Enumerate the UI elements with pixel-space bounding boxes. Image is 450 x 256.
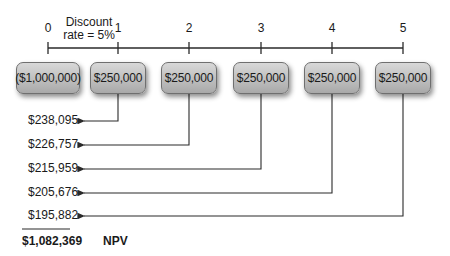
connector-period-1 [84,93,118,121]
cash-flow-box-4: $250,000 [304,62,360,94]
discount-rate-label: Discount rate = 5% [62,16,116,42]
connector-period-2 [84,93,189,145]
npv-label: NPV [103,234,128,248]
connector-period-4 [84,93,332,193]
npv-value: $1,082,369 [22,234,82,248]
present-value-2: $226,757 [28,137,78,151]
timeline-axis [48,42,403,54]
cash-flow-box-5: $250,000 [375,62,431,94]
present-value-5: $195,882 [28,208,78,222]
present-value-3: $215,959 [28,161,78,175]
present-value-1: $238,095 [28,113,78,127]
period-label-0: 0 [45,21,52,35]
cash-flow-box-0: ($1,000,000) [16,62,80,94]
discount-connectors [84,93,403,216]
connector-period-5 [84,93,403,216]
cash-flow-box-1: $250,000 [90,62,146,94]
period-label-4: 4 [329,21,336,35]
period-label-5: 5 [400,21,407,35]
period-label-2: 2 [186,21,193,35]
discount-rate-line2: rate = 5% [62,29,116,42]
cash-flow-box-3: $250,000 [233,62,289,94]
present-value-4: $205,676 [28,185,78,199]
cash-flow-box-2: $250,000 [161,62,217,94]
connector-period-3 [84,93,261,169]
period-label-3: 3 [258,21,265,35]
